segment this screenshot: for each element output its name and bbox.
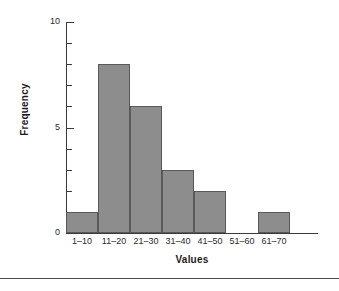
x-axis-tick-labels: 1–1011–2021–3031–4041–5051–6061–70	[66, 237, 318, 251]
plot-area	[66, 22, 318, 233]
x-tick-label-41–50: 41–50	[194, 237, 226, 247]
bar-31–40	[162, 170, 194, 233]
x-tick-label-11–20: 11–20	[98, 237, 130, 247]
x-axis-line	[66, 233, 318, 234]
bottom-divider	[0, 278, 339, 279]
x-axis-title: Values	[66, 254, 318, 265]
histogram-figure: 0510 1–1011–2021–3031–4041–5051–6061–70 …	[0, 0, 339, 291]
y-tick-label-0: 0	[36, 228, 60, 237]
bar-41–50	[194, 191, 226, 233]
x-tick-label-21–30: 21–30	[130, 237, 162, 247]
x-tick-label-51–60: 51–60	[226, 237, 258, 247]
x-tick-label-61–70: 61–70	[258, 237, 290, 247]
bar-61–70	[258, 212, 290, 233]
bar-21–30	[130, 106, 162, 233]
y-tick-label-10: 10	[36, 17, 60, 26]
x-tick-label-31–40: 31–40	[162, 237, 194, 247]
y-tick-label-5: 5	[36, 123, 60, 132]
y-axis-title: Frequency	[19, 50, 30, 170]
x-tick-label-1–10: 1–10	[66, 237, 98, 247]
y-tick-0	[67, 233, 74, 234]
bar-1–10	[66, 212, 98, 233]
bar-11–20	[98, 64, 130, 233]
